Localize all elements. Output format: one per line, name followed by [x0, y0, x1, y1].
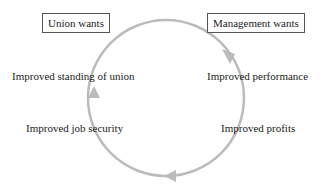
management-wants-label: Management wants: [213, 17, 299, 29]
management-item-profits: Improved profits: [221, 121, 295, 135]
union-wants-label: Union wants: [48, 17, 104, 29]
management-item-performance: Improved performance: [207, 69, 308, 83]
union-item-standing: Improved standing of union: [12, 69, 135, 83]
management-wants-header: Management wants: [207, 13, 305, 33]
cycle-circle: [88, 20, 244, 176]
arrowhead-icon: [164, 170, 176, 182]
union-wants-header: Union wants: [42, 13, 110, 33]
union-item-job-security: Improved job security: [26, 121, 123, 135]
